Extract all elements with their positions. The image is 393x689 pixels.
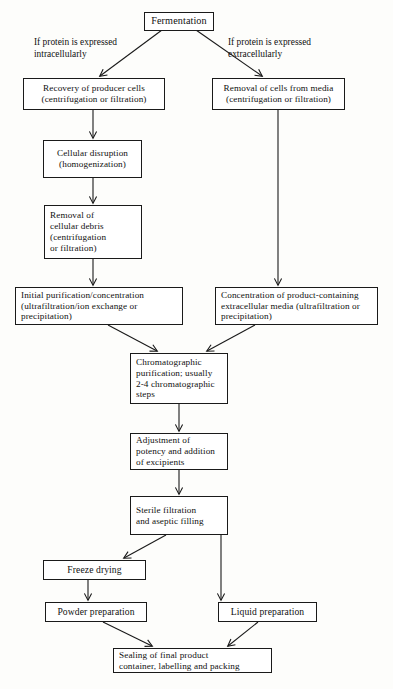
edge-label-intracellular: If protein is expressed intracellularly (34, 37, 149, 61)
node-removal-cellular-debris[interactable]: Removal of cellular debris (centrifugati… (44, 205, 142, 259)
node-recovery-producer-cells-label: Recovery of producer cells (centrifugati… (24, 83, 164, 105)
edge-label-extracellular: If protein is expressed extracellularly (228, 37, 348, 61)
node-chromatographic-purification[interactable]: Chromatographic purification; usually 2-… (130, 353, 228, 404)
node-adjustment-potency-label: Adjustment of potency and addition of ex… (131, 435, 227, 468)
node-sealing-final-product[interactable]: Sealing of final product container, labe… (113, 648, 272, 673)
node-liquid-preparation[interactable]: Liquid preparation (218, 602, 317, 622)
node-adjustment-potency[interactable]: Adjustment of potency and addition of ex… (130, 433, 228, 470)
node-fermentation[interactable]: Fermentation (144, 12, 214, 31)
node-concentration-extracellular-label: Concentration of product-containing extr… (216, 290, 377, 323)
node-sterile-filtration-label: Sterile filtration and aseptic filling (131, 505, 227, 527)
node-cellular-disruption[interactable]: Cellular disruption (homogenization) (43, 140, 142, 178)
node-initial-purification[interactable]: Initial purification/concentration (ultr… (15, 287, 183, 325)
node-initial-purification-label: Initial purification/concentration (ultr… (16, 290, 182, 323)
node-cellular-disruption-label: Cellular disruption (homogenization) (44, 148, 141, 170)
node-liquid-preparation-label: Liquid preparation (219, 606, 316, 617)
node-sterile-filtration[interactable]: Sterile filtration and aseptic filling (130, 496, 228, 535)
node-removal-cells-media-label: Removal of cells from media (centrifugat… (213, 83, 344, 105)
node-recovery-producer-cells[interactable]: Recovery of producer cells (centrifugati… (23, 78, 165, 110)
node-freeze-drying[interactable]: Freeze drying (43, 560, 146, 580)
node-powder-preparation[interactable]: Powder preparation (45, 602, 147, 622)
node-freeze-drying-label: Freeze drying (44, 564, 145, 575)
node-chromatographic-purification-label: Chromatographic purification; usually 2-… (131, 357, 227, 400)
node-removal-cellular-debris-label: Removal of cellular debris (centrifugati… (45, 210, 141, 253)
node-fermentation-label: Fermentation (145, 15, 213, 27)
node-sealing-final-product-label: Sealing of final product container, labe… (114, 650, 271, 672)
node-removal-cells-media[interactable]: Removal of cells from media (centrifugat… (212, 78, 345, 110)
node-powder-preparation-label: Powder preparation (46, 606, 146, 617)
node-concentration-extracellular[interactable]: Concentration of product-containing extr… (215, 287, 378, 325)
flowchart-diagram: Fermentation If protein is expressed int… (0, 0, 393, 689)
